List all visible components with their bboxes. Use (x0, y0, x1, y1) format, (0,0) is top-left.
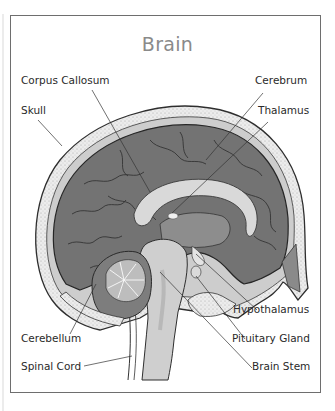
brain-illustration (0, 0, 335, 411)
label-cerebellum: Cerebellum (21, 332, 81, 344)
label-brain-stem: Brain Stem (252, 360, 310, 372)
label-cerebrum: Cerebrum (255, 74, 307, 86)
label-corpus-callosum: Corpus Callosum (21, 74, 110, 86)
label-hypothalamus: Hypothalamus (233, 303, 309, 315)
label-pituitary-gland: Pituitary Gland (232, 332, 310, 344)
label-thalamus: Thalamus (258, 104, 309, 116)
label-skull: Skull (21, 104, 46, 116)
label-spinal-cord: Spinal Cord (21, 360, 81, 372)
diagram-title: Brain (0, 33, 335, 55)
